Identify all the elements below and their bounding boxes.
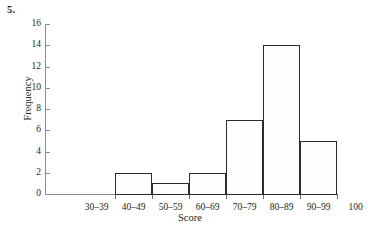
y-tick-mark [46,24,50,25]
y-tick-label: 2 [36,166,41,179]
y-axis-title: Frequency [21,59,34,139]
y-tick-label: 6 [36,123,41,136]
y-tick-mark [46,45,50,46]
histogram-bar [189,173,226,195]
x-tick-mark [337,194,338,199]
histogram-bar [300,141,337,195]
x-axis-title: Score [45,211,335,224]
y-tick: 14 [45,45,50,46]
y-tick: 6 [45,130,50,131]
y-tick: 0 [45,194,50,195]
y-tick-label: 14 [32,38,42,51]
y-tick-label: 0 [36,187,41,200]
y-tick: 10 [45,88,50,89]
y-tick-mark [46,194,50,195]
y-tick-label: 8 [36,102,41,115]
y-tick-label: 16 [32,17,42,30]
plot-area: 0246810121416 30–3940–4950–5960–6970–798… [45,24,335,194]
x-tick-label: 100 [337,201,368,214]
y-tick-mark [46,173,50,174]
y-tick-label: 4 [36,145,41,158]
y-tick: 4 [45,152,50,153]
y-tick: 2 [45,173,50,174]
y-tick: 8 [45,109,50,110]
histogram-bar [115,173,152,195]
y-tick-mark [46,67,50,68]
y-tick-mark [46,152,50,153]
y-tick-mark [46,130,50,131]
histogram-bar [152,183,189,195]
y-tick: 12 [45,67,50,68]
problem-number: 5. [7,4,15,16]
histogram-bar [263,45,300,195]
y-tick-mark [46,109,50,110]
y-tick: 16 [45,24,50,25]
histogram-bar [226,120,263,195]
y-tick-mark [46,88,50,89]
